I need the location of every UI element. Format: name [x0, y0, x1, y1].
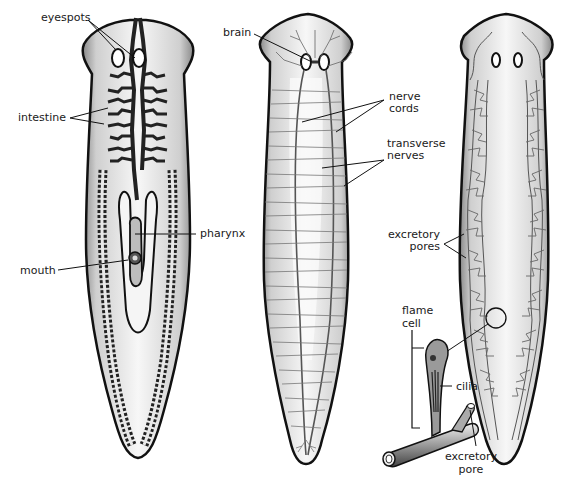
worm-excretory	[444, 14, 552, 464]
label-nerve-cords-line2: cords	[389, 103, 419, 115]
label-brain: brain	[223, 27, 251, 39]
label-excretory-pore-line1: excretory	[440, 451, 502, 463]
label-excretory-pore-line2: pore	[440, 464, 502, 476]
flame-cell-inset	[383, 330, 478, 467]
label-flame-cell-line1: flame	[402, 305, 433, 317]
worm-body-outline	[460, 14, 553, 464]
flame-cell	[426, 340, 448, 436]
eyespot-left	[492, 53, 500, 67]
label-mouth: mouth	[20, 265, 56, 277]
label-excretory-pores-line2: pores	[384, 241, 440, 253]
planarian-diagram: eyespots intestine pharynx mouth brain n…	[0, 0, 569, 482]
label-intestine: intestine	[18, 112, 66, 124]
label-flame-cell-line2: cell	[402, 318, 421, 330]
label-eyespots: eyespots	[41, 12, 91, 24]
eyespot-left	[112, 49, 124, 67]
label-pharynx: pharynx	[200, 228, 245, 240]
eyespot-right	[514, 53, 522, 67]
worm-digestive	[58, 18, 196, 458]
label-cilia: cilia	[456, 381, 478, 393]
diagram-canvas	[0, 0, 569, 482]
worm-nervous	[254, 14, 384, 464]
label-transverse-nerves-line2: nerves	[387, 150, 424, 162]
flame-cell-nucleus	[430, 355, 436, 361]
flame-cell-bracket	[412, 330, 424, 428]
